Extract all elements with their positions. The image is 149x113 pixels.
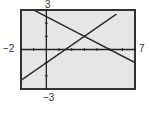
graph-window bbox=[0, 0, 149, 113]
